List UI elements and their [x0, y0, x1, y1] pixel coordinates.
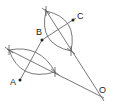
label-c: C — [77, 11, 84, 21]
construction-svg: A B C O — [0, 0, 114, 106]
bisector-bc-line — [45, 9, 104, 101]
point-a — [19, 79, 22, 82]
arc-bc-left — [44, 11, 71, 51]
point-b — [41, 39, 44, 42]
point-c — [72, 19, 75, 22]
label-a: A — [10, 77, 16, 87]
label-b: B — [36, 27, 42, 37]
arc-ab-upper — [9, 49, 55, 72]
diagram-canvas: A B C O — [0, 0, 114, 106]
label-o: O — [99, 85, 106, 95]
bisector-ab-line — [7, 49, 104, 98]
